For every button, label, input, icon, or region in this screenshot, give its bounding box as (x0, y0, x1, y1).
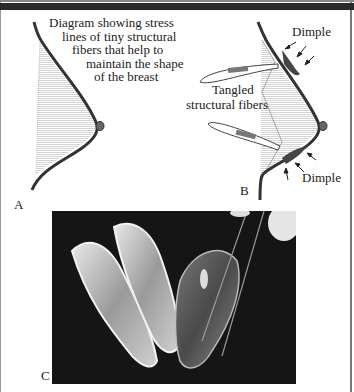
caption-line: fibers that help to (46, 43, 183, 57)
panel-b-label: B (240, 183, 249, 199)
panel-a-label: A (14, 197, 23, 213)
panel-c-label: C (41, 368, 50, 384)
orange-segments-photo (52, 211, 296, 384)
fibers-label-line1: Tangled (212, 82, 254, 98)
panel-a-caption: Diagram showing stress lines of tiny str… (46, 16, 183, 84)
dimple-top-label: Dimple (292, 24, 331, 40)
caption-line: of the breast (46, 70, 183, 84)
panel-c-photo (52, 211, 296, 384)
caption-line: lines of tiny structural (46, 30, 183, 44)
caption-line: Diagram showing stress (46, 16, 183, 30)
caption-line: maintain the shape (46, 57, 183, 71)
fibers-label-line2: structural fibers (186, 97, 268, 113)
dimple-bottom-label: Dimple (302, 170, 341, 186)
